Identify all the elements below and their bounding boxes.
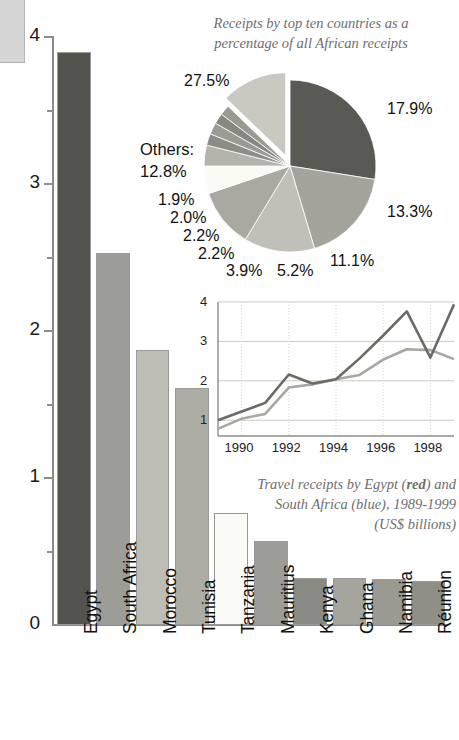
bar-label-réunion: Réunion (435, 570, 456, 634)
bar-chart-y-tick-labels: 43210 (0, 0, 40, 740)
line-x-tick-1992: 1992 (272, 440, 301, 455)
line-chart-caption: Travel receipts by Egypt (red) and South… (194, 474, 456, 534)
pie-label-11-1: 11.1% (330, 252, 374, 270)
bar-y-tickmark-4 (44, 36, 53, 38)
line-x-tick-1990: 1990 (225, 440, 254, 455)
bar-label-morocco: Morocco (160, 568, 181, 634)
pie-chart: Receipts by top ten countries as a perce… (160, 8, 459, 293)
bar-y-tick-3: 3 (10, 172, 40, 191)
caption-line-3: (US$ billions) (374, 516, 456, 532)
pie-label-2-2-a: 2.2% (183, 227, 219, 245)
bar-y-tickmark-3 (44, 183, 53, 185)
bar-label-namibia: Namibia (396, 571, 417, 634)
bar-y-minor-tick-2.5 (47, 257, 53, 259)
pie-slice-27-5 (290, 80, 376, 179)
bar-label-mauritius: Mauritius (278, 565, 299, 634)
bar-y-tickmark-1 (44, 477, 53, 479)
line-y-tick-3: 3 (200, 333, 207, 348)
bar-y-tick-0: 0 (10, 613, 40, 632)
pie-label-1-9: 1.9% (158, 191, 194, 209)
line-y-tick-1: 1 (200, 412, 207, 427)
bar-label-tanzania: Tanzania (238, 566, 259, 634)
line-y-tick-4: 4 (200, 294, 207, 309)
bar-y-tick-1: 1 (10, 466, 40, 485)
pie-label-2-2-b: 2.2% (198, 245, 234, 263)
bar-y-minor-tick-1.5 (47, 404, 53, 406)
pie-label-13-3: 13.3% (387, 203, 432, 221)
line-x-tick-1994: 1994 (319, 440, 348, 455)
pie-label-3-9: 3.9% (226, 262, 262, 280)
pie-others-pct: 12.8% (140, 162, 187, 180)
bar-y-tick-4: 4 (10, 25, 40, 44)
bar-y-tick-2: 2 (10, 319, 40, 338)
bar-egypt (57, 52, 91, 625)
bar-label-kenya: Kenya (317, 585, 338, 634)
pie-others-text: Others: (140, 140, 194, 158)
bar-label-south-africa: South Africa (120, 542, 141, 634)
line-x-tick-1998: 1998 (413, 440, 442, 455)
bar-label-egypt: Egypt (81, 590, 102, 634)
chart-figure: 43210 EgyptSouth AfricaMoroccoTunisiaTan… (0, 0, 459, 740)
pie-label-27-5: 27.5% (184, 72, 229, 90)
pie-label-others: Others: 12.8% (140, 138, 194, 183)
line-chart: 1234 19901992199419961998 Travel receipt… (186, 288, 459, 533)
line-x-tick-1996: 1996 (366, 440, 395, 455)
caption-line-2: South Africa (blue), 1989-1999 (275, 496, 456, 512)
bar-y-tickmark-2 (44, 330, 53, 332)
bar-y-minor-tick-3.5 (47, 110, 53, 112)
bar-label-ghana: Ghana (357, 582, 378, 634)
bar-label-tunisia: Tunisia (199, 580, 220, 634)
bar-y-minor-tick-0.5 (47, 551, 53, 553)
line-y-tick-2: 2 (200, 373, 207, 388)
pie-label-17-9: 17.9% (387, 100, 432, 118)
pie-label-5-2: 5.2% (277, 262, 313, 280)
caption-line-1: Travel receipts by Egypt (red) and (257, 476, 456, 492)
pie-label-2-0: 2.0% (170, 209, 206, 227)
